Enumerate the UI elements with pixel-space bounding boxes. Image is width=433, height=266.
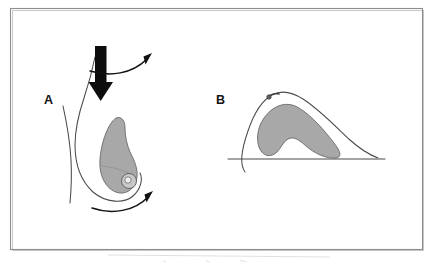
anatomical-diagram: A B: [0, 0, 433, 266]
frame-border: [11, 9, 423, 250]
nipple: [267, 94, 279, 100]
panel-a-label: A: [44, 93, 53, 107]
torso-contour: [63, 106, 71, 203]
nipple: [122, 174, 137, 189]
compressed-glandular-tissue: [258, 104, 340, 158]
frame-inner-shadow: [13, 11, 424, 251]
figure-container: A B: [0, 0, 433, 266]
panel-a: A: [44, 46, 153, 211]
panel-b-label: B: [216, 93, 225, 107]
figure-frame: [11, 9, 424, 251]
scan-artifacts: [108, 255, 330, 262]
panel-b: B: [216, 92, 385, 172]
